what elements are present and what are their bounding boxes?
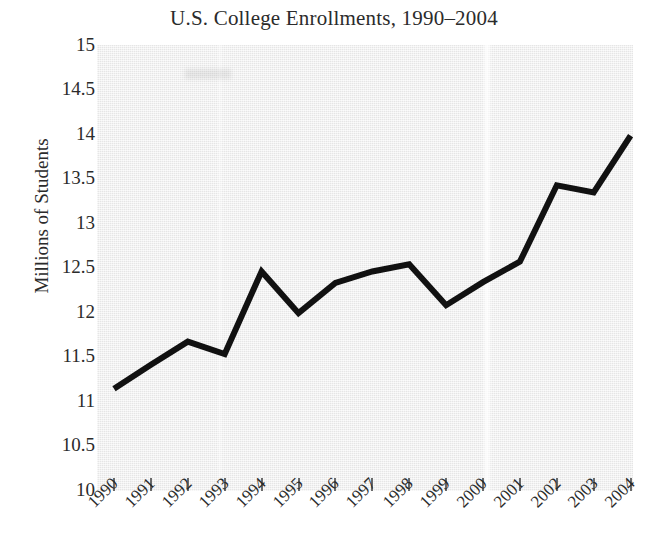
y-tick-label: 10 bbox=[9, 479, 95, 501]
y-tick-label: 12.5 bbox=[9, 256, 95, 278]
y-tick-label: 14.5 bbox=[9, 78, 95, 100]
y-tick-label: 12 bbox=[9, 301, 95, 323]
y-tick-label: 14 bbox=[9, 123, 95, 145]
y-tick-label: 11 bbox=[9, 390, 95, 412]
y-tick-label: 13.5 bbox=[9, 167, 95, 189]
y-tick-label: 15 bbox=[9, 34, 95, 56]
y-tick-label: 13 bbox=[9, 212, 95, 234]
data-line-svg bbox=[97, 45, 633, 491]
y-tick-label: 10.5 bbox=[9, 434, 95, 456]
y-axis: Millions of Students 15 14.5 14 13.5 13 … bbox=[0, 0, 95, 558]
chart-figure: U.S. College Enrollments, 1990–2004 Mill… bbox=[0, 0, 668, 558]
y-tick-label: 11.5 bbox=[9, 345, 95, 367]
data-line-enrollment bbox=[114, 136, 631, 389]
chart-title: U.S. College Enrollments, 1990–2004 bbox=[0, 6, 668, 31]
plot-area bbox=[97, 45, 633, 491]
